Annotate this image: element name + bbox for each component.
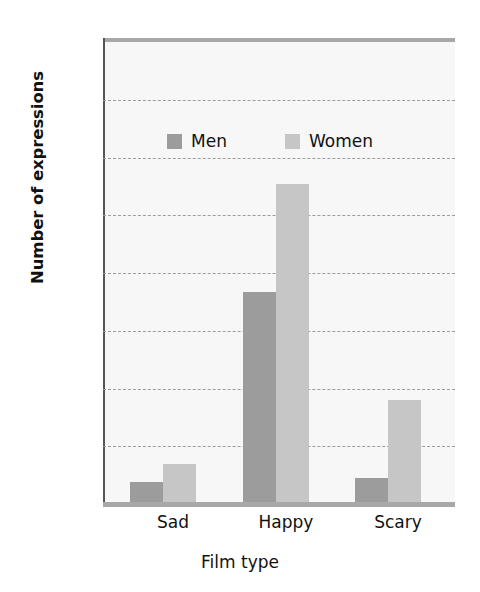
gridline-12 — [103, 158, 455, 159]
bar-women-scary — [388, 400, 421, 504]
bar-women-happy — [276, 184, 309, 505]
x-tick-sad: Sad — [113, 512, 233, 532]
x-axis-title: Film type — [0, 552, 480, 572]
legend-swatch-men-icon — [167, 134, 182, 149]
bar-men-happy — [243, 292, 276, 504]
bar-chart-figure: Number of expressions 0 2 4 6 8 10 12 14… — [0, 0, 480, 592]
x-tick-scary: Scary — [338, 512, 458, 532]
bar-men-sad — [130, 482, 163, 504]
legend-label-men: Men — [191, 133, 227, 150]
plot-area — [103, 38, 455, 507]
axis-top-spine — [103, 38, 455, 42]
legend-item-women: Women — [285, 131, 373, 151]
legend-label-women: Women — [309, 133, 373, 150]
legend-swatch-women-icon — [285, 134, 300, 149]
x-tick-happy: Happy — [226, 512, 346, 532]
bar-women-sad — [163, 464, 196, 504]
chart-legend: Men Women — [103, 131, 455, 151]
gridline-14 — [103, 100, 455, 101]
bar-men-scary — [355, 478, 388, 504]
legend-item-men: Men — [167, 131, 227, 151]
axis-bottom-spine — [103, 502, 455, 507]
